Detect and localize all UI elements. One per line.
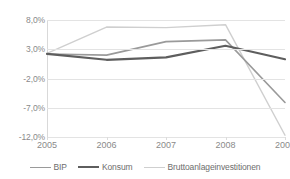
legend-item[interactable]: Bruttoanlageinvestitionen <box>144 162 261 172</box>
x-axis-tick-label: 2006 <box>96 140 116 150</box>
legend-label: BIP <box>54 162 67 172</box>
gridline <box>47 79 285 80</box>
gridline <box>47 108 285 109</box>
y-axis-tick-label: -2,0% <box>1 74 45 84</box>
legend-item[interactable]: BIP <box>30 162 67 172</box>
legend-label: Bruttoanlageinvestitionen <box>168 162 261 172</box>
x-axis-tick-label: 2005 <box>37 140 57 150</box>
y-axis-tick-label: 8,0% <box>1 15 45 25</box>
legend-swatch-icon <box>78 166 99 168</box>
chart-legend: BIPKonsumBruttoanlageinvestitionen <box>0 158 290 176</box>
legend-swatch-icon <box>30 167 51 168</box>
x-axis-tick-mark <box>226 137 227 140</box>
gridline <box>47 49 285 50</box>
legend-label: Konsum <box>102 162 133 172</box>
legend-swatch-icon <box>144 167 165 168</box>
x-axis-tick-mark <box>285 137 286 140</box>
x-axis-tick-mark <box>47 137 48 140</box>
y-axis-tick-label: 3,0% <box>1 44 45 54</box>
line-chart: 8,0%3,0%-2,0%-7,0%-12,0% 200520062007200… <box>0 0 290 179</box>
x-axis-tick-label: 2007 <box>156 140 176 150</box>
legend-item[interactable]: Konsum <box>78 162 133 172</box>
plot-area <box>47 20 285 137</box>
y-axis-labels: 8,0%3,0%-2,0%-7,0%-12,0% <box>0 0 45 179</box>
series-line <box>47 46 285 60</box>
x-axis-tick-mark <box>107 137 108 140</box>
x-axis-tick-label: 2009 <box>275 140 290 150</box>
x-axis-tick-mark <box>166 137 167 140</box>
gridline <box>47 20 285 21</box>
y-axis-tick-label: -7,0% <box>1 103 45 113</box>
x-axis-tick-label: 2008 <box>215 140 235 150</box>
